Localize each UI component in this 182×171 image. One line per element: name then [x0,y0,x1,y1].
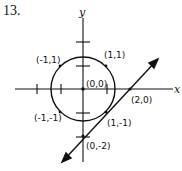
point-0-neg2 [81,134,84,137]
point-origin [81,87,85,91]
label-origin: (0,0) [86,79,107,89]
label-1-1: (1,1) [104,50,125,60]
y-axis-label: y [78,6,86,19]
label-1-neg1: (1,-1) [107,118,132,128]
label-neg1-neg1: (-1,-1) [34,113,62,123]
problem-number: 13. [3,3,21,18]
point-2-0 [128,87,131,90]
point-1-neg1 [104,110,107,113]
label-2-0: (2,0) [131,95,152,105]
label-0-neg2: (0,-2) [86,141,111,151]
point-neg1-1 [59,65,62,68]
label-neg1-1: (-1,1) [36,55,61,65]
graph-figure: 13. y x (-1,1) (1,1) (0,0) (2,0) (-1,-1) [0,0,182,171]
point-1-1 [105,65,108,68]
x-axis-label: x [174,83,181,96]
